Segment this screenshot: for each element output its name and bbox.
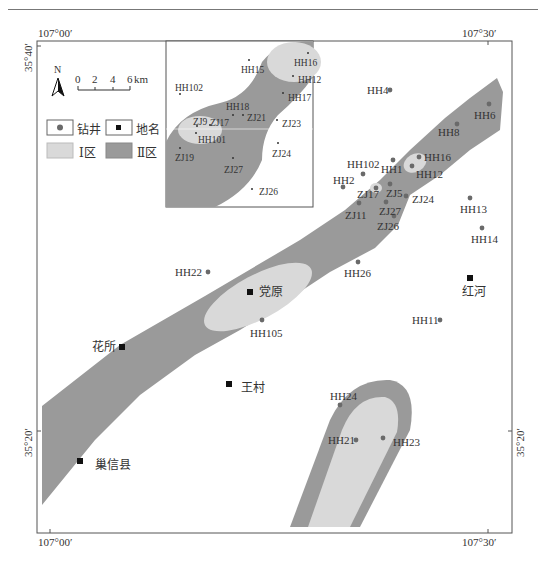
lon-bottom-left: 107°00′ [38,536,72,548]
inset-well-label: ZJ9 [193,116,207,128]
scale-tick-6: 6 [127,73,133,85]
inset-well-label: ZJ19 [175,152,194,164]
place-label: 巢信县 [95,459,131,471]
inset-well-label: HH102 [175,82,203,94]
lon-top-right: 107°30′ [462,27,496,39]
place-label: 王村 [241,382,265,394]
inset-well-label: ZJ26 [259,186,278,198]
well-label: HH12 [416,168,443,180]
well-label: ZJ17 [357,188,379,200]
place-label: 花所 [92,341,116,353]
well-label: ZJ26 [377,220,399,232]
scale-tick-2: 2 [92,73,98,85]
lon-top-left: 107°00′ [38,27,72,39]
place-label: 红河 [462,286,486,298]
well-label: ZJ5 [386,187,403,199]
well-label: HH2 [333,174,354,186]
well-label: HH105 [250,327,282,339]
inset-well-label: HH101 [198,134,226,146]
well-label: HH14 [471,233,498,245]
scale-tick-0: 0 [75,73,81,85]
well-label: HH26 [344,267,371,279]
legend-place-label: 地名 [136,120,160,138]
inset-well-label: HH12 [298,74,321,86]
inset-well-label: ZJ17 [210,117,229,129]
inset-well-label: ZJ27 [224,164,243,176]
lat-left-top: 35°40′ [22,43,34,72]
inset-well-label: HH15 [241,64,264,76]
well-label: HH4 [367,84,388,96]
well-label: HH102 [347,158,379,170]
well-label: HH23 [393,436,420,448]
lon-bottom-right: 107°30′ [462,536,496,548]
well-label: HH13 [460,203,487,215]
scale-unit: km [134,73,148,85]
well-label: HH21 [328,434,355,446]
well-label: HH1 [381,163,402,175]
scale-tick-4: 4 [110,73,116,85]
well-label: HH22 [175,266,202,278]
legend-zone1-label: Ⅰ区 [79,143,96,161]
well-label: HH6 [474,109,495,121]
legend-zone2-label: Ⅱ区 [137,143,157,161]
legend-well-label: 钻井 [77,120,101,138]
well-label: HH8 [438,126,459,138]
inset-well-label: HH16 [294,57,317,69]
inset-well-label: ZJ23 [282,118,301,130]
lat-right-bottom: 35°20′ [514,428,526,457]
well-label: ZJ11 [345,209,367,221]
place-label: 党原 [259,286,283,298]
well-label: ZJ24 [412,193,434,205]
inset-well-label: HH18 [226,101,249,113]
inset-well-label: ZJ24 [272,148,291,160]
well-label: HH24 [330,390,357,402]
well-label: HH16 [424,151,451,163]
inset-well-label: ZJ21 [247,112,266,124]
lat-left-bottom: 35°20′ [22,428,34,457]
well-label: HH11 [412,314,438,326]
well-label: ZJ27 [379,205,401,217]
inset-well-label: HH17 [288,92,311,104]
map-canvas [0,0,546,567]
north-label: N [54,64,61,75]
